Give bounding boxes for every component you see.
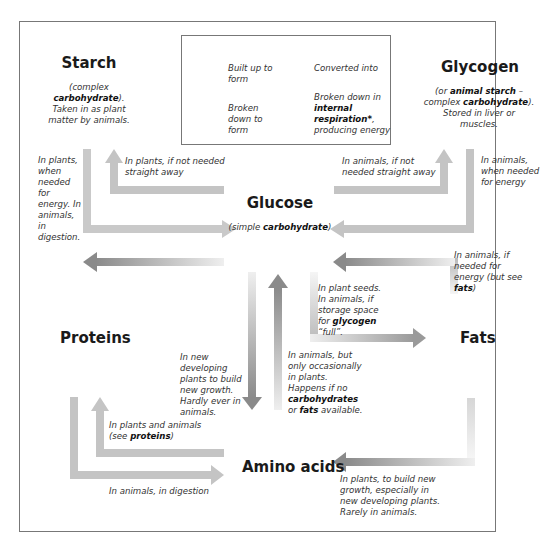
legend-built-up-label: Built up to form	[228, 63, 283, 85]
label-glucose-to-amino: In new developing plants to build new gr…	[180, 352, 248, 418]
node-starch-title: Starch	[48, 54, 130, 72]
node-proteins-title: Proteins	[60, 329, 131, 347]
node-starch-desc: (complex carbohydrate). Taken in as plan…	[44, 82, 134, 126]
label-glycogen-to-glucose: In animals, when needed for energy	[481, 155, 541, 188]
legend-broken-down-label: Broken down to form	[228, 103, 276, 136]
node-glycogen-desc: (or animal starch – complex carbohydrate…	[423, 86, 535, 130]
node-amino-acids-title: Amino acids	[242, 458, 344, 476]
node-glucose-title: Glucose	[238, 194, 322, 212]
legend-respiration-label: Broken down in internal respiration*, pr…	[314, 92, 390, 136]
arrow-glucose-respiration	[83, 252, 224, 272]
label-proteins-to-amino: In animals, in digestion	[109, 486, 229, 497]
label-amino-to-proteins: In plants and animals (see proteins)	[109, 420, 219, 442]
node-glucose-desc: (simple carbohydrate)	[228, 222, 332, 233]
label-glucose-to-starch: In plants, if not needed straight away	[125, 156, 235, 178]
label-glucose-to-glycogen: In animals, if not needed straight away	[342, 156, 438, 178]
node-fats-title: Fats	[460, 329, 496, 347]
label-fats-to-glucose: In animals, if needed for energy (but se…	[454, 250, 532, 294]
node-glycogen-title: Glycogen	[430, 58, 530, 76]
label-starch-to-glucose: In plants, when needed for energy. In an…	[38, 155, 82, 243]
arrow-amino-to-glucose	[268, 274, 288, 410]
legend-converted-label: Converted into	[314, 63, 389, 74]
label-glucose-to-fats: In plant seeds. In animals, if storage s…	[318, 283, 388, 338]
label-amino-to-glucose: In animals, but only occasionally in pla…	[288, 350, 366, 416]
label-fats-to-amino: In plants, to build new growth, especial…	[340, 474, 440, 518]
